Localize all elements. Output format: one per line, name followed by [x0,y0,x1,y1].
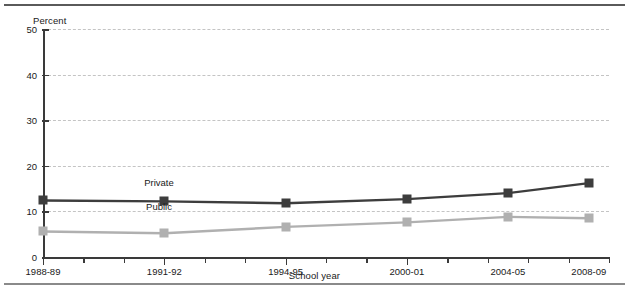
series-label-private: Private [144,177,174,188]
data-point-marker [281,199,290,208]
data-point-marker [39,196,48,205]
x-tick-minor [488,257,489,263]
y-tick-label: 0 [32,252,37,263]
x-tick-minor [366,257,367,263]
y-axis-title: Percent [33,15,66,26]
y-tick-label: 40 [26,69,37,80]
data-point-marker [503,189,512,198]
x-tick-minor [447,257,448,263]
data-point-marker [402,218,411,227]
x-tick-major [286,257,287,265]
y-tick-label: 10 [26,206,37,217]
x-tick-minor [569,257,570,263]
chart-figure: Percent 01020304050 PrivatePublic 1988-8… [0,0,629,292]
x-tick-minor [205,257,206,263]
data-point-marker [503,212,512,221]
x-tick-major [164,257,165,265]
x-tick-major [43,257,44,265]
x-tick-minor [326,257,327,263]
data-point-marker [584,214,593,223]
series-lines-group [43,29,609,257]
data-point-marker [281,222,290,231]
y-tick-label: 20 [26,160,37,171]
x-axis-title: School year [0,270,629,281]
data-point-marker [160,229,169,238]
data-point-marker [402,195,411,204]
y-tick-label: 30 [26,115,37,126]
top-divider-rule [4,4,625,6]
series-label-public: Public [146,201,172,212]
data-point-marker [39,227,48,236]
y-tick-label: 50 [26,24,37,35]
data-point-marker [584,179,593,188]
x-tick-major [407,257,408,265]
plot-area: 01020304050 PrivatePublic [43,29,609,257]
x-tick-minor [609,257,610,263]
x-tick-minor [245,257,246,263]
x-tick-minor [83,257,84,263]
x-tick-minor [124,257,125,263]
x-tick-minor [528,257,529,263]
bottom-divider-rule [4,283,625,285]
